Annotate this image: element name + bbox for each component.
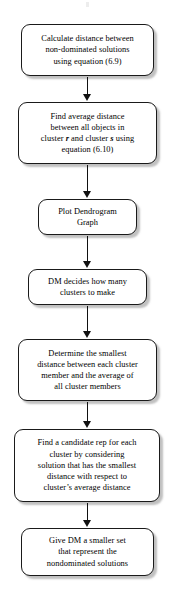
arrowhead-icon bbox=[83, 191, 91, 198]
connector-3-to-4 bbox=[82, 236, 93, 268]
connector-1-to-2 bbox=[82, 77, 93, 101]
arrowhead-icon bbox=[83, 421, 91, 428]
node-label: Determine the smallest distance between … bbox=[22, 348, 153, 393]
flowchart-node-find-average-distance[interactable]: Find average distance between all object… bbox=[18, 102, 157, 164]
connector-shaft bbox=[87, 165, 88, 192]
flowchart-node-dm-decides-clusters[interactable]: DM decides how many clusters to make bbox=[28, 269, 147, 305]
node-label: Give DM a smaller set that represent the… bbox=[25, 535, 150, 569]
flowchart-node-calculate-distance[interactable]: Calculate distance between non-dominated… bbox=[21, 24, 154, 76]
connector-2-to-3 bbox=[82, 165, 93, 198]
connector-shaft bbox=[87, 77, 88, 95]
connector-shaft bbox=[87, 503, 88, 521]
flowchart-node-plot-dendrogram-graph[interactable]: Plot Dendrogram Graph bbox=[38, 199, 137, 235]
arrowhead-icon bbox=[83, 520, 91, 527]
connector-shaft bbox=[87, 236, 88, 262]
node-label: Find a candidate rep for each cluster by… bbox=[18, 437, 156, 493]
flowchart-canvas: Calculate distance between non-dominated… bbox=[0, 0, 175, 597]
flowchart-node-give-dm-smaller-set[interactable]: Give DM a smaller set that represent the… bbox=[21, 528, 154, 576]
connector-5-to-6 bbox=[82, 402, 93, 428]
arrowhead-icon bbox=[83, 331, 91, 338]
connector-4-to-5 bbox=[82, 306, 93, 338]
arrowhead-icon bbox=[83, 261, 91, 268]
node-label: DM decides how many clusters to make bbox=[32, 276, 143, 299]
node-label-mid: and cluster bbox=[69, 134, 110, 143]
arrowhead-icon bbox=[83, 94, 91, 101]
flowchart-node-find-candidate-rep[interactable]: Find a candidate rep for each cluster by… bbox=[14, 429, 160, 502]
connector-shaft bbox=[87, 306, 88, 332]
connector-shaft bbox=[87, 402, 88, 422]
connector-6-to-7 bbox=[82, 503, 93, 527]
node-label: Find average distance between all object… bbox=[22, 111, 153, 156]
node-label: Plot Dendrogram Graph bbox=[42, 206, 133, 229]
top-edge-artifact bbox=[86, 2, 89, 7]
node-label: Calculate distance between non-dominated… bbox=[25, 33, 150, 67]
flowchart-node-determine-smallest-distance[interactable]: Determine the smallest distance between … bbox=[18, 339, 157, 401]
